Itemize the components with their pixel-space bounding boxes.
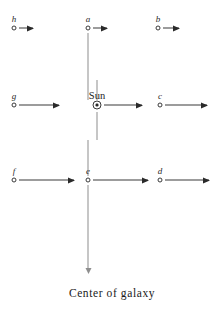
node-d-label: d [158, 167, 163, 176]
node-g[interactable]: g [12, 103, 17, 108]
node-a-dot [86, 26, 91, 31]
node-c-velocity-arrow [165, 105, 207, 106]
node-g-velocity-arrow [19, 105, 59, 106]
node-a-label: a [86, 15, 91, 24]
node-c-label: c [158, 92, 162, 101]
galaxy-diagram: h a b g Sun c f e d Center of [0, 0, 224, 311]
node-b-label: b [156, 15, 161, 24]
node-h-dot [12, 26, 17, 31]
node-d-dot [158, 178, 163, 183]
node-a[interactable]: a [86, 26, 91, 31]
node-h-label: h [12, 15, 17, 24]
node-f[interactable]: f [12, 178, 17, 183]
node-e-velocity-arrow [93, 180, 148, 181]
galaxy-center-arrow [88, 185, 89, 269]
node-g-dot [12, 103, 17, 108]
node-e-dot [86, 178, 91, 183]
node-f-label: f [13, 167, 16, 176]
node-e[interactable]: e [86, 178, 91, 183]
node-d[interactable]: d [158, 178, 163, 183]
node-g-label: g [12, 92, 17, 101]
vertical-axis-middle-segment [97, 112, 98, 140]
sun-label: Sun [89, 90, 105, 101]
node-b[interactable]: b [156, 26, 161, 31]
node-e-label: e [86, 167, 90, 176]
node-c-dot [158, 103, 163, 108]
sun-symbol-icon [93, 101, 102, 110]
node-c[interactable]: c [158, 103, 163, 108]
node-d-velocity-arrow [165, 180, 209, 181]
node-b-dot [156, 26, 161, 31]
node-h[interactable]: h [12, 26, 17, 31]
node-b-velocity-arrow [163, 28, 179, 29]
sun-velocity-arrow [104, 105, 142, 106]
galaxy-center-caption: Center of galaxy [69, 287, 155, 300]
node-f-dot [12, 178, 17, 183]
sun-node[interactable]: Sun [93, 101, 102, 110]
node-f-velocity-arrow [19, 180, 74, 181]
node-a-velocity-arrow [93, 28, 107, 29]
node-h-velocity-arrow [19, 28, 33, 29]
